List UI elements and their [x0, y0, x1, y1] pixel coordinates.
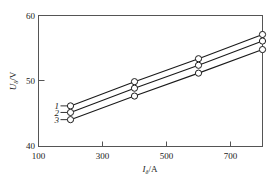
data-point-1-800 — [259, 31, 265, 37]
data-point-2-200 — [67, 109, 73, 115]
data-point-2-400 — [131, 85, 137, 91]
data-point-3-600 — [195, 70, 201, 76]
data-point-1-600 — [195, 56, 201, 62]
x-axis-title: Iδ/A — [142, 164, 158, 175]
series-labels: 123 — [54, 101, 60, 125]
data-point-3-800 — [259, 46, 265, 52]
svg-text:Iδ/A: Iδ/A — [142, 164, 158, 175]
data-point-3-200 — [67, 117, 73, 123]
data-point-2-600 — [195, 62, 201, 68]
series-label-3: 3 — [54, 115, 60, 125]
y-tick-label-top: 60 — [26, 11, 36, 21]
data-point-3-400 — [131, 93, 137, 99]
y-axis-title: Uδ/V — [8, 71, 19, 90]
data-point-1-200 — [67, 103, 73, 109]
chart-container: 60 50 40 100300500700 Uδ/V Iδ/A 123 — [0, 0, 278, 183]
x-tick-label-700: 700 — [224, 151, 238, 161]
data-point-2-800 — [259, 38, 265, 44]
x-tick-label-500: 500 — [160, 151, 174, 161]
line-chart: 60 50 40 100300500700 Uδ/V Iδ/A 123 — [0, 0, 278, 183]
y-axis-title-unit: /V — [8, 71, 18, 81]
x-axis-title-unit: /A — [148, 164, 158, 174]
svg-text:Uδ/V: Uδ/V — [8, 71, 19, 90]
y-tick-label-mid: 50 — [26, 76, 36, 86]
x-tick-label-100: 100 — [32, 151, 46, 161]
y-tick-label-bottom: 40 — [26, 141, 36, 151]
x-tick-label-300: 300 — [96, 151, 110, 161]
data-point-1-400 — [131, 79, 137, 85]
